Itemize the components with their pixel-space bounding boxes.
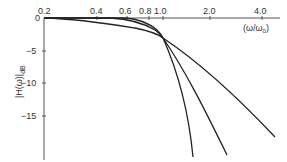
- x-tick-label: 2.0: [203, 6, 216, 16]
- x-tick-label: 4.0: [254, 6, 267, 16]
- x-tick-label: 0.6: [119, 6, 132, 16]
- y-tick-label: −15: [21, 111, 36, 121]
- curve-order-4: [44, 18, 227, 155]
- y-tick-label: 0: [35, 13, 40, 23]
- x-tick-label: 1.0: [154, 6, 167, 16]
- x-tick-labels: 0.2 0.4 0.6 0.8 1.0 2.0 4.0: [38, 6, 267, 16]
- frequency-response-chart: 0.2 0.4 0.6 0.8 1.0 2.0 4.0 (ω/ω0) 0 −5 …: [0, 0, 287, 162]
- x-axis-label: (ω/ω0): [243, 23, 269, 34]
- x-tick-label: 0.8: [139, 6, 152, 16]
- curve-order-8: [44, 18, 193, 157]
- curve-order-2: [44, 18, 275, 137]
- y-tick-label: −5: [26, 46, 36, 56]
- x-tick-label: 0.4: [90, 6, 103, 16]
